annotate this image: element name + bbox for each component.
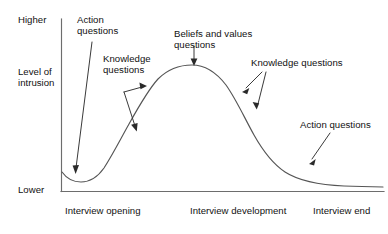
arrowhead-action-opening <box>73 165 79 174</box>
leader-knowledge-early-upper <box>124 87 142 92</box>
annotation-action-opening-line2: questions <box>77 25 118 37</box>
arrowhead-action-end <box>309 159 316 166</box>
leader-knowledge-late-left <box>246 72 262 88</box>
arrowhead-knowledge-early-upper <box>139 83 147 90</box>
leader-knowledge-early-lower <box>124 92 135 126</box>
leader-knowledge-late-down <box>258 72 266 104</box>
x-axis-label-interview-opening: Interview opening <box>65 205 141 217</box>
annotation-knowledge-early-line2: questions <box>103 64 144 76</box>
axes-group <box>61 19 384 192</box>
leader-action-end <box>312 133 330 159</box>
y-axis-label-level-line1: Level of <box>18 66 52 78</box>
annotation-action-opening-line1: Action <box>77 14 104 26</box>
annotation-beliefs-line2: questions <box>174 39 215 51</box>
intrusion-curve-diagram: Higher Level of intrusion Lower Intervie… <box>0 0 388 234</box>
annotation-knowledge-late: Knowledge questions <box>251 57 343 69</box>
y-axis-label-higher: Higher <box>18 14 46 26</box>
x-axis-label-interview-development: Interview development <box>190 205 286 217</box>
leader-action-opening <box>76 42 92 168</box>
y-axis-label-level-line2: intrusion <box>18 77 54 89</box>
annotation-beliefs-line1: Beliefs and values <box>174 28 252 40</box>
y-axis-label-lower: Lower <box>18 184 44 196</box>
arrowhead-knowledge-late-down <box>253 102 260 109</box>
x-axis-label-interview-end: Interview end <box>313 205 370 217</box>
annotation-action-end: Action questions <box>300 119 371 131</box>
arrowhead-knowledge-early-lower <box>131 123 138 131</box>
arrowhead-knowledge-late-left <box>242 88 249 94</box>
annotation-knowledge-early-line1: Knowledge <box>103 53 151 65</box>
